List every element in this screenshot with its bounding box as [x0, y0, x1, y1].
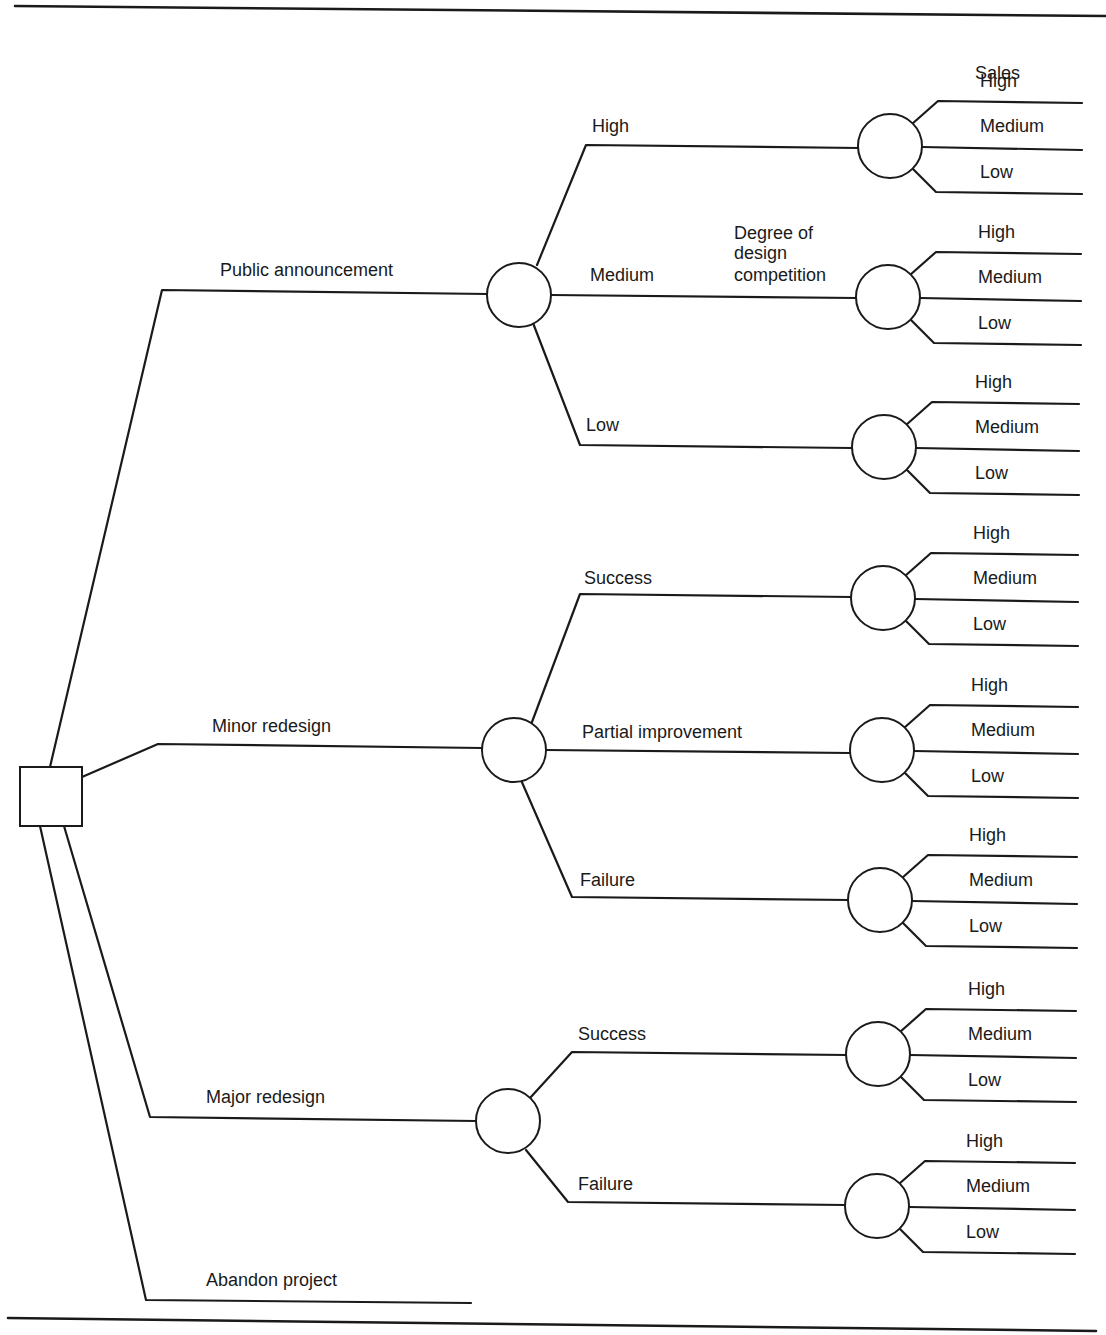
- design-competition-label-line3: competition: [734, 265, 826, 285]
- sales-outcome-label: Medium: [973, 568, 1037, 588]
- sales-outcome-label: Medium: [968, 1024, 1032, 1044]
- outcome-branch: [526, 1150, 846, 1205]
- sales-outcome-label: Medium: [969, 870, 1033, 890]
- tree-edges: [40, 101, 1082, 1303]
- sales-outcome-label: Low: [978, 313, 1012, 333]
- sales-outcome-label: High: [968, 979, 1005, 999]
- sales-branch-medium: [922, 147, 1082, 150]
- chance-node: [846, 1022, 910, 1086]
- design-competition-label-line2: design: [734, 243, 787, 263]
- alternative-label: Abandon project: [206, 1270, 337, 1290]
- decision-node: [20, 767, 82, 826]
- page-rules: [8, 6, 1106, 1331]
- outcome-label: Low: [586, 415, 620, 435]
- outcome-label: Failure: [578, 1174, 633, 1194]
- sales-outcome-label: High: [971, 675, 1008, 695]
- sales-outcome-label: Low: [973, 614, 1007, 634]
- outcome-branch: [530, 1052, 847, 1098]
- chance-node: [487, 263, 551, 327]
- chance-node: [845, 1174, 909, 1238]
- sales-branch-medium: [916, 448, 1079, 451]
- alternative-branch: [50, 290, 488, 767]
- sales-outcome-label: High: [975, 372, 1012, 392]
- sales-branch-medium: [910, 1055, 1076, 1058]
- sales-outcome-label: High: [980, 71, 1017, 91]
- sales-branch-medium: [912, 901, 1077, 904]
- sales-branch-medium: [914, 751, 1078, 754]
- sales-outcome-label: Low: [966, 1222, 1000, 1242]
- outcome-label: High: [592, 116, 629, 136]
- rule-bottom: [8, 1318, 1096, 1331]
- decision-tree-diagram: Sales Degree of design competition Publi…: [0, 0, 1106, 1335]
- alternative-branch: [40, 826, 471, 1303]
- sales-outcome-label: Medium: [975, 417, 1039, 437]
- chance-node: [856, 265, 920, 329]
- outcome-label: Medium: [590, 265, 654, 285]
- outcome-branch: [546, 750, 851, 753]
- alternative-label: Minor redesign: [212, 716, 331, 736]
- chance-node: [852, 415, 916, 479]
- rule-top: [15, 6, 1106, 16]
- chance-node: [476, 1089, 540, 1153]
- outcome-branch: [537, 145, 859, 265]
- outcome-branch: [532, 594, 852, 722]
- alternative-branch: [64, 826, 476, 1121]
- chance-node: [851, 566, 915, 630]
- alternative-label: Public announcement: [220, 260, 393, 280]
- sales-outcome-label: Low: [975, 463, 1009, 483]
- tree-labels: Sales Degree of design competition Publi…: [206, 63, 1044, 1290]
- sales-outcome-label: High: [978, 222, 1015, 242]
- sales-outcome-label: Medium: [971, 720, 1035, 740]
- sales-outcome-label: High: [966, 1131, 1003, 1151]
- sales-outcome-label: Medium: [978, 267, 1042, 287]
- outcome-label: Success: [578, 1024, 646, 1044]
- sales-outcome-label: Low: [980, 162, 1014, 182]
- alternative-label: Major redesign: [206, 1087, 325, 1107]
- outcome-branch: [533, 323, 852, 448]
- outcome-label: Failure: [580, 870, 635, 890]
- outcome-label: Partial improvement: [582, 722, 742, 742]
- outcome-label: Success: [584, 568, 652, 588]
- sales-outcome-label: Medium: [980, 116, 1044, 136]
- chance-node: [848, 868, 912, 932]
- outcome-branch: [521, 780, 849, 900]
- outcome-branch: [551, 295, 857, 298]
- sales-outcome-label: Low: [971, 766, 1005, 786]
- alternative-branch: [82, 744, 482, 777]
- sales-outcome-label: Low: [969, 916, 1003, 936]
- sales-branch-medium: [915, 599, 1078, 602]
- sales-outcome-label: High: [969, 825, 1006, 845]
- sales-outcome-label: High: [973, 523, 1010, 543]
- sales-branch-medium: [920, 298, 1081, 301]
- sales-outcome-label: Medium: [966, 1176, 1030, 1196]
- chance-node: [482, 718, 546, 782]
- sales-outcome-label: Low: [968, 1070, 1002, 1090]
- chance-node: [858, 114, 922, 178]
- chance-node: [850, 718, 914, 782]
- sales-branch-medium: [909, 1207, 1075, 1210]
- design-competition-label-line1: Degree of: [734, 223, 814, 243]
